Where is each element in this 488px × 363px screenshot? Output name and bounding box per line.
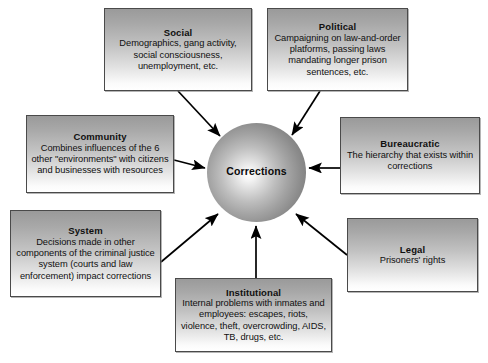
node-legal-description: Prisoners' rights [380,255,446,266]
node-institutional[interactable]: Institutional Internal problems with inm… [175,278,332,352]
hub-label: Corrections [226,165,287,177]
diagram-canvas: Social Demographics, gang activity, soci… [0,0,488,363]
node-legal-title: Legal [400,244,425,256]
node-social-description: Demographics, gang activity, social cons… [109,38,247,72]
arrow-community-to-hub [174,160,205,168]
arrow-political-to-hub [292,91,320,135]
node-community-description: Combines influences of the 6 other "envi… [31,143,169,177]
node-political-description: Campaigning on law-and-order platforms, … [272,33,403,78]
node-social-title: Social [164,27,193,39]
arrow-social-to-hub [178,91,220,136]
node-bureaucratic-title: Bureaucratic [380,138,439,150]
node-bureaucratic-description: The hierarchy that exists within correct… [345,150,475,173]
node-social[interactable]: Social Demographics, gang activity, soci… [104,8,252,91]
node-system-title: System [68,225,102,237]
node-institutional-description: Internal problems with inmates and emplo… [180,298,327,343]
node-political[interactable]: Political Campaigning on law-and-order p… [267,8,408,91]
node-system-description: Decisions made in other components of th… [15,237,156,282]
arrow-legal-to-hub [296,214,347,255]
node-community[interactable]: Community Combines influences of the 6 o… [26,115,174,193]
hub-sphere-corrections[interactable]: Corrections [207,123,306,222]
node-legal[interactable]: Legal Prisoners' rights [347,218,478,292]
arrow-system-to-hub [161,214,218,262]
node-institutional-title: Institutional [226,287,281,299]
node-political-title: Political [319,21,356,33]
node-community-title: Community [73,131,126,143]
node-bureaucratic[interactable]: Bureaucratic The hierarchy that exists w… [340,117,480,194]
node-system[interactable]: System Decisions made in other component… [10,210,161,297]
